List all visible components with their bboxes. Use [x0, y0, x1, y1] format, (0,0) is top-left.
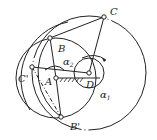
link-ab-prime	[56, 78, 61, 117]
linkage-diagram: B C A D C' B' α2 α1	[0, 0, 157, 140]
label-d: D	[85, 79, 94, 90]
label-alpha2: α2	[63, 56, 74, 68]
link-ab	[50, 38, 56, 78]
arc-outer-left	[21, 22, 68, 110]
label-b: B	[57, 43, 65, 54]
label-c: C	[110, 6, 118, 17]
label-b-prime: B'	[69, 121, 80, 132]
ground-hatch	[60, 78, 83, 82]
link-c-prime-b-prime	[32, 67, 61, 117]
label-a: A	[44, 76, 52, 87]
link-bc	[50, 17, 104, 38]
label-alpha1: α1	[100, 89, 111, 101]
label-c-prime: C'	[18, 73, 28, 84]
